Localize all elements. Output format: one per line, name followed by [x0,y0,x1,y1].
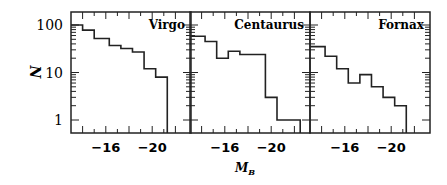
histogram-line [310,47,406,133]
y-ticks [71,25,191,120]
y-tick-label-10: 10 [45,65,63,81]
x-tick-label: −20 [377,140,406,155]
x-tick-label: −16 [91,140,120,155]
x-tick-label: −16 [330,140,359,155]
panel-virgo: −16−20Virgo [71,12,191,155]
y-tick-label-100: 100 [36,17,63,33]
x-axis-title-sub: B [247,167,255,177]
panels: −16−20Virgo−16−20Centaurus−16−20Fornax [71,12,430,155]
y-axis-title: N [27,65,43,80]
x-tick-label: −16 [210,140,239,155]
y-ticks [310,25,430,120]
y-ticks [190,25,310,120]
panel-fornax: −16−20Fornax [310,12,430,155]
figure: N 100 10 1 −16−20Virgo−16−20Centaurus−16… [0,0,447,185]
x-tick-label: −20 [138,140,167,155]
panel-title: Virgo [148,18,185,32]
x-axis-title-main: M [234,161,249,175]
histogram-line [71,25,167,133]
panel-centaurus: −16−20Centaurus [190,12,310,155]
panel-title: Fornax [378,18,425,32]
x-axis-title: MB [234,161,255,177]
x-tick-label: −20 [257,140,286,155]
y-tick-label-1: 1 [54,112,63,128]
histogram-line [190,36,300,133]
panel-title: Centaurus [234,18,304,32]
